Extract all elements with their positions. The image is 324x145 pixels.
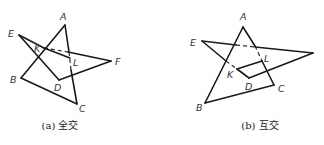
edge-ac-upper bbox=[243, 27, 255, 46]
label-b-D: D bbox=[245, 81, 252, 92]
label-b-C: C bbox=[278, 83, 285, 94]
edge-ab bbox=[205, 27, 243, 103]
intersection-kl-b bbox=[237, 61, 262, 69]
edge-ef-hidden bbox=[236, 45, 255, 47]
label-a-K: K bbox=[34, 43, 41, 54]
label-a-F: F bbox=[115, 56, 121, 67]
label-b-B: B bbox=[196, 102, 203, 113]
label-a-C: C bbox=[79, 103, 86, 114]
edge-df bbox=[249, 53, 313, 78]
label-b-E: E bbox=[190, 37, 196, 48]
caption-a: (a) 全交 bbox=[42, 119, 79, 131]
figure-a: A E K L F B D C (a) 全交 bbox=[8, 11, 121, 131]
triangle-abc-b bbox=[205, 27, 274, 103]
label-a-D: D bbox=[54, 82, 61, 93]
edge-ac-upper bbox=[65, 25, 69, 52]
triangle-def-b bbox=[202, 41, 313, 78]
edge-df bbox=[59, 61, 111, 80]
label-a-B: B bbox=[10, 74, 17, 85]
figure-b: A E L K D C B (b) 互交 bbox=[190, 11, 313, 131]
triangle-abc-a bbox=[21, 25, 77, 104]
intersecting-triangles-figure: A E K L F B D C (a) 全交 A bbox=[0, 0, 324, 145]
edge-ed-hidden bbox=[226, 61, 237, 69]
edge-ef-left bbox=[19, 35, 44, 48]
triangle-def-a bbox=[19, 35, 111, 80]
label-a-A: A bbox=[59, 11, 67, 22]
edge-ed-lower bbox=[237, 69, 249, 78]
edge-bc bbox=[21, 78, 77, 104]
label-a-L: L bbox=[73, 57, 78, 68]
label-b-L: L bbox=[264, 53, 269, 64]
label-b-K: K bbox=[227, 69, 234, 80]
label-a-E: E bbox=[8, 28, 14, 39]
label-b-A: A bbox=[239, 11, 247, 22]
edge-ac-hidden bbox=[69, 52, 71, 70]
caption-b: (b) 互交 bbox=[241, 119, 278, 131]
edge-ab bbox=[21, 25, 65, 78]
intersection-kl-a bbox=[44, 48, 70, 58]
edge-bc bbox=[205, 85, 274, 103]
